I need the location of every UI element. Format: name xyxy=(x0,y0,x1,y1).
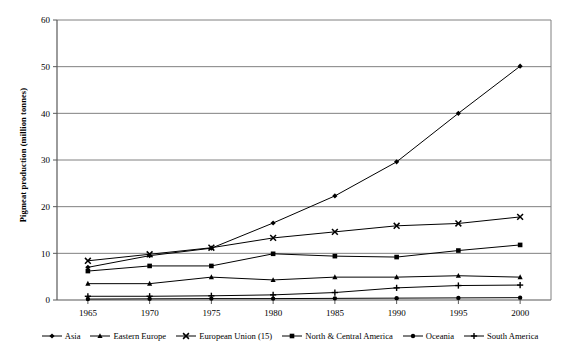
y-axis-label: Pigmeat production (million tonnes) xyxy=(18,55,28,255)
x-axis-ticks: 19651970197519801985199019952000 xyxy=(79,300,530,318)
legend-label: North & Central America xyxy=(305,331,393,341)
data-point-circle xyxy=(456,296,460,300)
series-european-union-15 xyxy=(85,214,523,264)
data-point-plus xyxy=(85,293,91,299)
data-point-diamond xyxy=(332,193,337,198)
data-point-square xyxy=(290,334,295,339)
y-tick-label: 60 xyxy=(41,15,51,25)
y-tick-label: 20 xyxy=(41,202,51,212)
series-eastern-europe xyxy=(85,273,522,286)
legend-label: Oceania xyxy=(426,331,454,341)
data-point-square xyxy=(209,264,214,269)
legend-marker-icon xyxy=(89,331,111,341)
legend-item: North & Central America xyxy=(281,331,393,341)
x-tick-label: 1990 xyxy=(388,308,407,318)
legend-marker-icon xyxy=(281,331,303,341)
data-point-square xyxy=(333,254,338,259)
data-point-plus xyxy=(270,292,276,298)
data-point-plus xyxy=(455,282,461,288)
legend-item: Eastern Europe xyxy=(89,331,166,341)
data-point-circle xyxy=(411,334,415,338)
series-asia xyxy=(85,64,522,270)
legend-marker-icon xyxy=(463,331,485,341)
y-tick-label: 10 xyxy=(41,249,51,259)
legend-label: European Union (15) xyxy=(199,331,272,341)
data-point-plus xyxy=(471,333,477,339)
data-point-circle xyxy=(518,295,522,299)
y-tick-label: 50 xyxy=(41,62,51,72)
data-point-square xyxy=(147,264,152,269)
y-tick-label: 40 xyxy=(41,109,51,119)
data-point-plus xyxy=(517,282,523,288)
legend-marker-icon xyxy=(402,331,424,341)
x-tick-label: 1965 xyxy=(79,308,98,318)
data-point-diamond xyxy=(49,333,54,338)
legend-item: Oceania xyxy=(402,331,454,341)
x-tick-label: 1975 xyxy=(202,308,221,318)
gridlines xyxy=(57,20,551,300)
legend-label: Asia xyxy=(65,331,81,341)
legend-item: South America xyxy=(463,331,538,341)
data-point-plus xyxy=(332,289,338,295)
y-tick-label: 30 xyxy=(41,155,51,165)
chart-plot-area: 0102030405060 19651970197519801985199019… xyxy=(0,0,579,353)
legend-item: Asia xyxy=(41,331,81,341)
x-tick-label: 1970 xyxy=(141,308,160,318)
x-tick-label: 1980 xyxy=(264,308,283,318)
y-axis-ticks: 0102030405060 xyxy=(41,15,57,305)
data-point-square xyxy=(271,252,276,257)
pigmeat-production-chart: 0102030405060 19651970197519801985199019… xyxy=(0,0,579,353)
data-point-circle xyxy=(333,296,337,300)
y-tick-label: 0 xyxy=(46,295,51,305)
data-point-square xyxy=(456,248,461,253)
legend-marker-icon xyxy=(175,331,197,341)
legend-label: Eastern Europe xyxy=(113,331,166,341)
series-north-central-america xyxy=(86,243,523,274)
data-point-square xyxy=(518,243,523,248)
data-series-layer xyxy=(85,64,523,302)
data-point-plus xyxy=(394,285,400,291)
legend-label: South America xyxy=(487,331,538,341)
data-point-square xyxy=(394,255,399,260)
data-point-diamond xyxy=(271,220,276,225)
data-point-plus xyxy=(208,293,214,299)
x-tick-label: 1995 xyxy=(449,308,468,318)
x-tick-label: 2000 xyxy=(511,308,530,318)
data-point-circle xyxy=(394,296,398,300)
chart-legend: AsiaEastern EuropeEuropean Union (15)Nor… xyxy=(0,331,579,341)
legend-item: European Union (15) xyxy=(175,331,272,341)
legend-marker-icon xyxy=(41,331,63,341)
data-point-square xyxy=(86,269,91,274)
chart-svg: 0102030405060 19651970197519801985199019… xyxy=(0,0,579,353)
x-tick-label: 1985 xyxy=(326,308,345,318)
